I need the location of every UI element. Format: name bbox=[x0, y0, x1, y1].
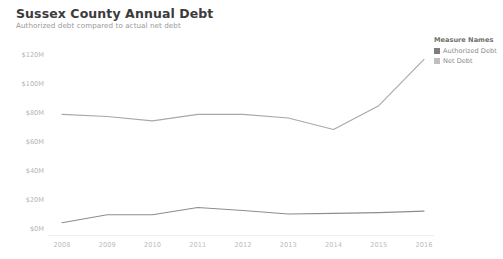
y-axis-tick: $100M bbox=[8, 80, 44, 88]
legend-swatch-icon bbox=[434, 58, 440, 64]
x-axis-tick: 2015 bbox=[359, 241, 399, 249]
chart-svg bbox=[0, 0, 503, 259]
series-line-authorized-debt[interactable] bbox=[62, 59, 424, 129]
x-axis-tick: 2013 bbox=[268, 241, 308, 249]
series-line-net-debt[interactable] bbox=[62, 208, 424, 223]
y-axis-tick: $0M bbox=[8, 225, 44, 233]
y-axis-tick: $120M bbox=[8, 51, 44, 59]
legend-swatch-icon bbox=[434, 48, 440, 54]
x-axis-tick: 2008 bbox=[42, 241, 82, 249]
y-axis-tick: $80M bbox=[8, 109, 44, 117]
legend: Measure Names Authorized DebtNet Debt bbox=[434, 36, 500, 67]
legend-item-label: Authorized Debt bbox=[443, 47, 497, 55]
chart-container: Sussex County Annual Debt Authorized deb… bbox=[0, 0, 503, 259]
legend-title: Measure Names bbox=[434, 36, 500, 44]
x-axis-tick: 2012 bbox=[223, 241, 263, 249]
legend-item-net-debt[interactable]: Net Debt bbox=[434, 57, 500, 65]
legend-item-authorized-debt[interactable]: Authorized Debt bbox=[434, 47, 500, 55]
x-axis-tick: 2016 bbox=[404, 241, 444, 249]
legend-items: Authorized DebtNet Debt bbox=[434, 47, 500, 65]
x-axis-tick: 2010 bbox=[133, 241, 173, 249]
x-axis-tick: 2014 bbox=[314, 241, 354, 249]
y-axis-tick: $60M bbox=[8, 138, 44, 146]
y-axis-tick: $40M bbox=[8, 167, 44, 175]
plot-area: $0M$20M$40M$60M$80M$100M$120M 2008200920… bbox=[0, 0, 503, 259]
x-axis-tick: 2011 bbox=[178, 241, 218, 249]
y-axis-tick: $20M bbox=[8, 196, 44, 204]
x-axis-tick: 2009 bbox=[87, 241, 127, 249]
legend-item-label: Net Debt bbox=[443, 57, 473, 65]
